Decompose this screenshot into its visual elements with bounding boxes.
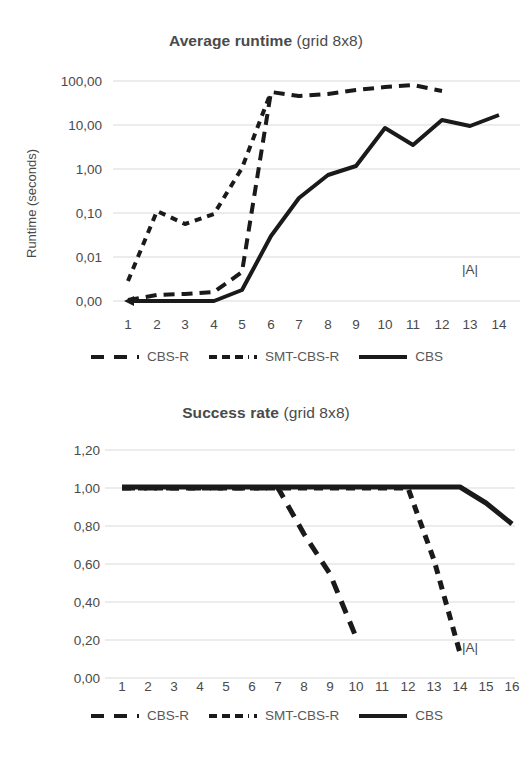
- x-tick-label: 11: [399, 318, 427, 332]
- x-tick-label: 3: [160, 680, 188, 694]
- x-axis-label-success: |A|: [462, 640, 478, 655]
- x-tick-label: 16: [498, 680, 526, 694]
- x-tick-label: 12: [428, 318, 456, 332]
- x-tick-label: 8: [314, 318, 342, 332]
- success-plot-svg: [0, 384, 532, 714]
- gridlines-success: [105, 450, 515, 678]
- x-tick-label: 2: [143, 318, 171, 332]
- x-tick-label: 15: [472, 680, 500, 694]
- x-tick-label: 4: [186, 680, 214, 694]
- x-tick-label: 8: [290, 680, 318, 694]
- legend-swatch-short-dash: [207, 352, 259, 362]
- x-tick-label: 2: [134, 680, 162, 694]
- legend-label: CBS-R: [147, 709, 189, 723]
- legend-label: CBS: [415, 709, 443, 723]
- legend-swatch-long-dash: [89, 352, 141, 362]
- x-tick-label: 6: [238, 680, 266, 694]
- x-tick-label: 6: [257, 318, 285, 332]
- series-line-cbs-r: [122, 488, 356, 637]
- x-tick-label: 1: [114, 318, 142, 332]
- x-axis-label-runtime: |A|: [462, 262, 478, 277]
- x-tick-label: 12: [394, 680, 422, 694]
- x-tick-label: 10: [342, 680, 370, 694]
- x-tick-label: 14: [446, 680, 474, 694]
- x-tick-label: 7: [285, 318, 313, 332]
- legend-label: SMT-CBS-R: [265, 709, 339, 723]
- x-tick-label: 5: [228, 318, 256, 332]
- chart-average-runtime: Average runtime (grid 8x8) Runtime (seco…: [0, 0, 532, 384]
- x-tick-label: 14: [485, 318, 513, 332]
- legend-swatch-solid: [357, 711, 409, 721]
- series-line-smt-cbs-r: [128, 92, 271, 281]
- x-tick-label: 5: [212, 680, 240, 694]
- line-start-cap: [124, 296, 134, 306]
- legend-item-smt-cbs-r[interactable]: SMT-CBS-R: [207, 350, 339, 364]
- legend-item-cbs[interactable]: CBS: [357, 709, 443, 723]
- x-tick-label: 11: [368, 680, 396, 694]
- legend-swatch-short-dash: [207, 711, 259, 721]
- series-line-cbs: [122, 487, 512, 524]
- x-tick-label: 9: [342, 318, 370, 332]
- x-tick-label: 1: [108, 680, 136, 694]
- chart-success-rate: Success rate (grid 8x8) Success rate 1,2…: [0, 384, 532, 768]
- x-tick-label: 4: [200, 318, 228, 332]
- plot-area-runtime: Runtime (seconds) 100,00 10,00 1,00 0,10…: [0, 0, 532, 340]
- legend-item-cbs-r[interactable]: CBS-R: [89, 709, 189, 723]
- legend-label: SMT-CBS-R: [265, 350, 339, 364]
- legend-swatch-long-dash: [89, 711, 141, 721]
- runtime-plot-svg: [0, 0, 532, 340]
- legend-success: CBS-R SMT-CBS-R CBS: [0, 709, 532, 723]
- legend-label: CBS-R: [147, 350, 189, 364]
- x-tick-label: 13: [420, 680, 448, 694]
- x-tick-label: 7: [264, 680, 292, 694]
- gridlines-runtime: [113, 81, 520, 301]
- legend-item-smt-cbs-r[interactable]: SMT-CBS-R: [207, 709, 339, 723]
- x-tick-label: 13: [456, 318, 484, 332]
- x-tick-label: 10: [371, 318, 399, 332]
- legend-label: CBS: [415, 350, 443, 364]
- legend-swatch-solid: [357, 352, 409, 362]
- series-line-cbs: [128, 115, 499, 301]
- x-tick-label: 9: [316, 680, 344, 694]
- series-line-cbs-r: [128, 85, 442, 300]
- legend-item-cbs[interactable]: CBS: [357, 350, 443, 364]
- plot-area-success: Success rate 1,20 1,00 0,80 0,60 0,40 0,…: [0, 384, 532, 714]
- legend-runtime: CBS-R SMT-CBS-R CBS: [0, 350, 532, 364]
- legend-item-cbs-r[interactable]: CBS-R: [89, 350, 189, 364]
- x-tick-label: 3: [171, 318, 199, 332]
